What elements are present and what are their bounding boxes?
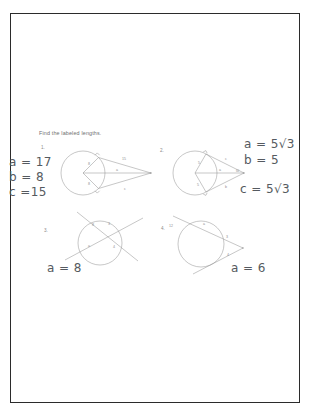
answer-figure1-c: c =15 — [9, 186, 47, 198]
right-angle-mark-upper-1 — [95, 153, 100, 155]
external-point-4 — [242, 247, 243, 248]
secant-4 — [173, 216, 243, 248]
label-2-radius-upper: 5 — [198, 161, 200, 165]
label-4-tangent: 4 — [227, 253, 229, 257]
external-point-2 — [243, 172, 244, 173]
label-1-tangent-upper: 15 — [122, 157, 126, 161]
diagram-1-circle-two-tangents: 8 15 8 c a — [50, 138, 155, 208]
answer-figure2-b: b = 5 — [244, 154, 279, 166]
label-4-chord: a — [203, 222, 205, 226]
figure-number-2: 2. — [160, 148, 164, 153]
label-2-tangent-upper: c — [225, 157, 227, 161]
worksheet-prompt: Find the labeled lengths. — [39, 130, 102, 136]
label-2-tangent-lower: b — [225, 185, 227, 189]
circle-4 — [178, 221, 224, 267]
label-2-center-line: a — [219, 168, 221, 172]
label-3-upper-left: 8 — [92, 223, 94, 227]
answer-figure4-a: a = 6 — [231, 262, 266, 274]
answer-figure1-a: a = 17 — [9, 156, 52, 168]
label-2-radius-lower: 5 — [197, 183, 199, 187]
label-3-lower-right: 4 — [113, 245, 115, 249]
diagram-2-circle-two-tangents: 5 c 5 b a 60 — [165, 138, 255, 208]
external-point-1 — [150, 172, 151, 173]
worksheet-body: Find the labeled lengths. 1. 8 1 — [0, 0, 309, 414]
right-angle-mark-lower-1 — [95, 191, 100, 193]
label-2-angle: 60 — [236, 169, 240, 173]
label-1-center-line: a — [116, 168, 118, 172]
label-3-lower-left: a — [88, 244, 90, 248]
label-1-radius-lower: 8 — [88, 182, 90, 186]
answer-figure2-c: c = 5√3 — [240, 183, 290, 195]
figure-number-1: 1. — [41, 145, 45, 150]
label-1-radius-upper: 8 — [88, 162, 90, 166]
label-4-external-secant: 3 — [226, 235, 228, 239]
answer-figure3-a: a = 8 — [47, 262, 82, 274]
figure-number-3: 3. — [44, 228, 48, 233]
label-1-tangent-lower: c — [124, 187, 126, 191]
answer-figure2-a: a = 5√3 — [244, 138, 295, 150]
label-4-outer-secant: 12 — [169, 224, 173, 228]
radius-lower-1 — [83, 173, 99, 189]
page-sheet: Find the labeled lengths. 1. 8 1 — [0, 0, 309, 414]
answer-figure1-b: b = 8 — [9, 171, 44, 183]
secant-down-right-3 — [77, 212, 138, 261]
radius-upper-1 — [83, 158, 99, 174]
tangent-lower-2 — [206, 173, 244, 192]
label-3-upper-right: 3 — [108, 222, 110, 226]
radius-upper-2 — [195, 154, 206, 173]
secant-up-right-3 — [65, 218, 143, 260]
